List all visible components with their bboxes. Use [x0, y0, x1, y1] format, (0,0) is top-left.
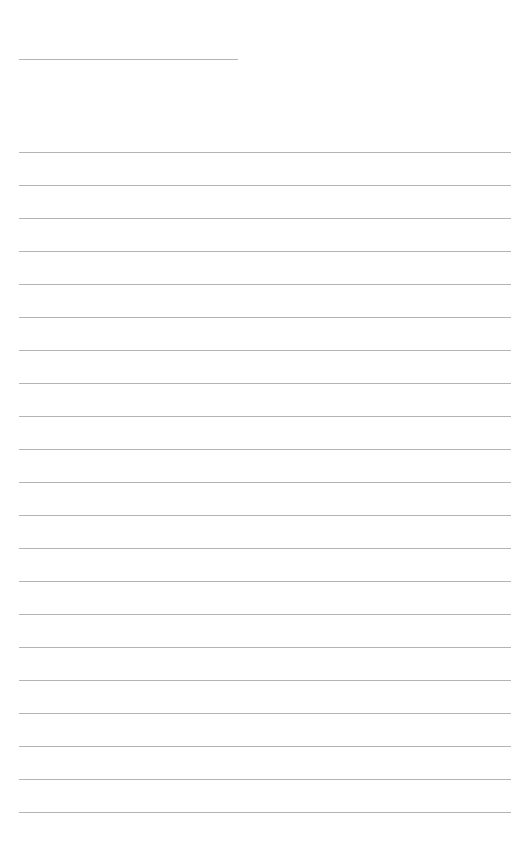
ruled-line[interactable] — [19, 416, 511, 417]
ruled-line[interactable] — [19, 680, 511, 681]
ruled-line[interactable] — [19, 449, 511, 450]
ruled-line[interactable] — [19, 284, 511, 285]
lined-page — [0, 0, 532, 860]
title-line[interactable] — [19, 59, 238, 60]
ruled-line[interactable] — [19, 515, 511, 516]
ruled-line[interactable] — [19, 713, 511, 714]
ruled-line[interactable] — [19, 218, 511, 219]
ruled-line[interactable] — [19, 152, 511, 153]
ruled-line[interactable] — [19, 647, 511, 648]
ruled-line[interactable] — [19, 317, 511, 318]
ruled-line[interactable] — [19, 746, 511, 747]
ruled-line[interactable] — [19, 383, 511, 384]
ruled-line[interactable] — [19, 482, 511, 483]
ruled-line[interactable] — [19, 779, 511, 780]
ruled-line[interactable] — [19, 185, 511, 186]
ruled-line[interactable] — [19, 548, 511, 549]
ruled-line[interactable] — [19, 251, 511, 252]
ruled-line[interactable] — [19, 350, 511, 351]
ruled-line[interactable] — [19, 581, 511, 582]
ruled-line[interactable] — [19, 614, 511, 615]
ruled-line[interactable] — [19, 812, 511, 813]
